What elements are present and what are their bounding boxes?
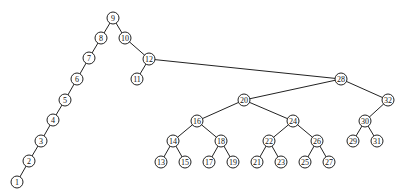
- tree-node-1: 1: [11, 176, 23, 188]
- node-label: 14: [169, 137, 177, 146]
- node-label: 19: [229, 158, 237, 167]
- node-label: 29: [349, 137, 357, 146]
- tree-nodes: 9810712611543212820321624301418222629311…: [11, 12, 394, 188]
- node-label: 24: [289, 117, 297, 126]
- tree-node-18: 18: [215, 135, 227, 147]
- tree-node-17: 17: [203, 156, 215, 168]
- node-label: 26: [313, 137, 321, 146]
- node-label: 1: [15, 178, 19, 187]
- node-label: 5: [63, 96, 67, 105]
- tree-node-25: 25: [299, 156, 311, 168]
- edge-20-24: [244, 100, 293, 121]
- node-label: 7: [87, 54, 91, 63]
- tree-node-13: 13: [155, 156, 167, 168]
- tree-node-19: 19: [227, 156, 239, 168]
- node-label: 16: [193, 117, 201, 126]
- tree-node-4: 4: [47, 114, 59, 126]
- node-label: 13: [157, 158, 165, 167]
- node-label: 3: [39, 137, 43, 146]
- tree-node-28: 28: [335, 73, 347, 85]
- tree-node-21: 21: [251, 156, 263, 168]
- node-label: 31: [373, 137, 381, 146]
- tree-node-15: 15: [179, 156, 191, 168]
- node-label: 22: [265, 137, 273, 146]
- edge-12-28: [149, 59, 341, 79]
- tree-node-26: 26: [311, 135, 323, 147]
- tree-node-11: 11: [131, 73, 143, 85]
- node-label: 8: [99, 34, 103, 43]
- tree-node-9: 9: [107, 12, 119, 24]
- tree-node-16: 16: [191, 115, 203, 127]
- node-label: 21: [253, 158, 261, 167]
- node-label: 27: [325, 158, 333, 167]
- tree-node-10: 10: [119, 32, 131, 44]
- node-label: 20: [240, 96, 248, 105]
- node-label: 30: [361, 117, 369, 126]
- edge-28-32: [341, 79, 388, 100]
- tree-node-7: 7: [83, 52, 95, 64]
- tree-node-24: 24: [287, 115, 299, 127]
- node-label: 4: [51, 116, 55, 125]
- tree-node-5: 5: [59, 94, 71, 106]
- node-label: 25: [301, 158, 309, 167]
- tree-node-31: 31: [371, 135, 383, 147]
- tree-node-6: 6: [71, 73, 83, 85]
- tree-node-23: 23: [275, 156, 287, 168]
- node-label: 2: [27, 157, 31, 166]
- tree-node-20: 20: [238, 94, 250, 106]
- node-label: 23: [277, 158, 285, 167]
- tree-node-3: 3: [35, 135, 47, 147]
- node-label: 11: [133, 75, 141, 84]
- node-label: 32: [384, 96, 392, 105]
- tree-node-12: 12: [143, 53, 155, 65]
- tree-node-27: 27: [323, 156, 335, 168]
- node-label: 28: [337, 75, 345, 84]
- node-label: 12: [145, 55, 153, 64]
- tree-node-22: 22: [263, 135, 275, 147]
- edge-28-20: [244, 79, 341, 100]
- edge-20-16: [197, 100, 244, 121]
- node-label: 18: [217, 137, 225, 146]
- node-label: 10: [121, 34, 129, 43]
- binary-tree-diagram: 9810712611543212820321624301418222629311…: [0, 0, 410, 195]
- tree-node-2: 2: [23, 155, 35, 167]
- tree-node-32: 32: [382, 94, 394, 106]
- node-label: 6: [75, 75, 79, 84]
- tree-node-14: 14: [167, 135, 179, 147]
- node-label: 17: [205, 158, 213, 167]
- tree-node-8: 8: [95, 32, 107, 44]
- tree-node-30: 30: [359, 115, 371, 127]
- tree-node-29: 29: [347, 135, 359, 147]
- node-label: 15: [181, 158, 189, 167]
- node-label: 9: [111, 14, 115, 23]
